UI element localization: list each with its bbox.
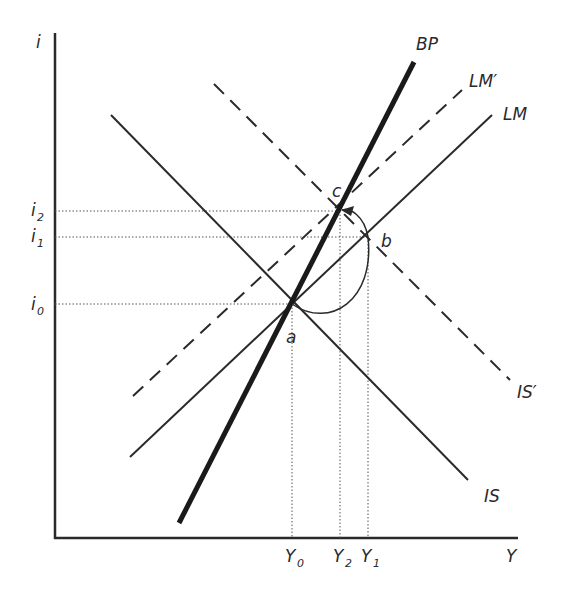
lm-prime-curve [133,90,462,396]
svg-text:Y: Y [285,546,297,566]
y-axis-label: i [36,32,41,52]
svg-text:1: 1 [373,557,380,570]
svg-text:i: i [31,294,36,314]
arrowhead-icon [341,206,354,216]
y-tick-i1: i 1 [31,226,44,250]
y-tick-i0: i 0 [31,294,44,318]
svg-text:2: 2 [345,557,352,570]
x-tick-Y0: Y 0 [285,546,304,570]
svg-text:Y: Y [361,546,373,566]
guide-lines [55,211,368,538]
x-tick-Y2: Y 2 [333,546,352,570]
svg-text:2: 2 [37,211,44,224]
svg-text:i: i [31,200,36,220]
svg-text:Y: Y [333,546,345,566]
x-tick-Y1: Y 1 [361,546,380,570]
svg-text:0: 0 [297,557,304,570]
x-axis-label: Y [506,546,518,566]
svg-text:0: 0 [37,305,44,318]
point-c-label: c [332,181,342,201]
point-b-label: b [381,231,392,251]
y-tick-i2: i 2 [31,200,44,224]
is-prime-label: IS′ [517,382,537,402]
svg-text:1: 1 [37,237,44,250]
lm-label: LM [503,104,527,124]
lm-prime-label: LM′ [469,71,497,91]
point-a-label: a [286,327,296,347]
lm-curve [130,115,492,457]
is-label: IS [484,486,500,506]
bp-label: BP [416,34,439,54]
is-lm-bp-diagram: i Y BP LM′ LM IS′ IS a b c i 2 i 1 i 0 [0,0,566,590]
bp-curve [179,62,414,523]
svg-text:i: i [31,226,36,246]
